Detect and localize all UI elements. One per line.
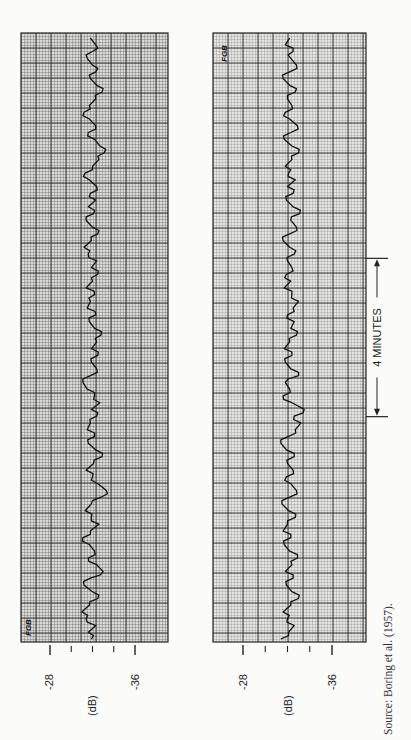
right-tick-label-36: -36: [326, 674, 338, 690]
left-unit-label: (dB): [86, 695, 98, 716]
source-caption: Source: Boring et al. (1957).: [382, 603, 394, 735]
right-tick-label-28: -28: [237, 674, 249, 690]
span-arrow-down-icon: [374, 409, 380, 416]
right-annotation-initials: FGB: [220, 45, 229, 62]
right-unit-label: (dB): [282, 695, 294, 716]
left-annotation-initials: FGB: [24, 619, 33, 636]
right-y-axis-ticks: [243, 645, 332, 655]
left-tick-label-36: -36: [129, 674, 141, 690]
left-chart-panel: FGB -28 -36 (dB): [21, 33, 168, 716]
left-tick-label-28: -28: [43, 674, 55, 690]
left-y-axis-ticks: [50, 645, 135, 655]
span-arrow-up-icon: [374, 259, 380, 266]
span-label: 4 MINUTES: [371, 308, 383, 367]
right-chart-panel: FGB -28 -36 (dB): [213, 33, 366, 716]
time-span-marker: 4 MINUTES: [366, 258, 388, 416]
strip-chart-figure: FGB -28 -36 (dB) FGB -28 -36 (dB) 4 MINU…: [0, 0, 411, 740]
